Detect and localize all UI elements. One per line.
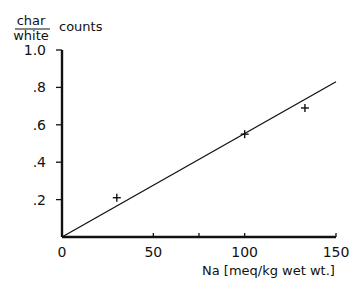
scatter-chart: char white counts .2.4.6.81.0 050100150 … — [0, 0, 358, 298]
plot-area — [62, 82, 336, 237]
fit-line — [62, 82, 336, 237]
x-tick-label: 50 — [144, 244, 162, 260]
y-tick-label: .6 — [33, 117, 46, 133]
x-tick-label: 100 — [231, 244, 258, 260]
y-axis-label: char white counts — [13, 13, 102, 43]
x-tick-label: 150 — [323, 244, 350, 260]
y-label-suffix: counts — [59, 19, 103, 34]
y-tick-label: 1.0 — [24, 42, 46, 58]
x-axis-label: Na [meq/kg wet wt.] — [202, 263, 335, 278]
data-point-plus-marker — [113, 194, 121, 202]
data-point-plus-marker — [301, 104, 309, 112]
y-label-numerator: char — [17, 13, 46, 28]
y-ticks: .2.4.6.81.0 — [24, 42, 62, 208]
y-tick-label: .8 — [33, 79, 46, 95]
y-label-denominator: white — [13, 28, 49, 43]
x-tick-label: 0 — [58, 244, 67, 260]
y-tick-label: .2 — [33, 192, 46, 208]
y-tick-label: .4 — [33, 154, 46, 170]
